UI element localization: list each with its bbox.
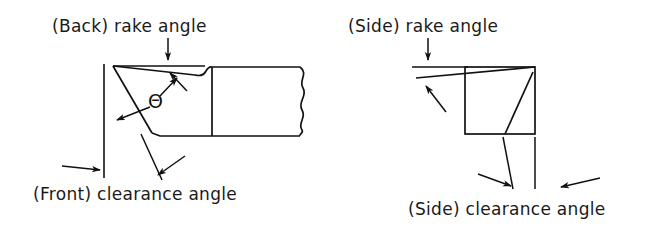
theta-angle-symbol-label: Θ bbox=[148, 92, 163, 111]
tool-shank-bottom-edge bbox=[152, 133, 300, 136]
side-rake-face-line bbox=[416, 67, 535, 78]
front-clearance-face-line bbox=[113, 66, 152, 133]
front-clearance-arrow-left bbox=[62, 166, 100, 170]
break-line-wavy bbox=[300, 67, 304, 136]
front-clearance-angle-label: (Front) clearance angle bbox=[33, 186, 237, 203]
side-clearance-face-line bbox=[505, 72, 533, 134]
tool-angle-diagram: (Back) rake angle (Front) clearance angl… bbox=[0, 0, 653, 243]
side-clearance-angle-label: (Side) clearance angle bbox=[408, 201, 606, 218]
left-view-group bbox=[62, 38, 304, 180]
front-clearance-arrow-right bbox=[158, 156, 185, 175]
back-rake-angle-label: (Back) rake angle bbox=[52, 18, 207, 35]
side-clearance-arrow-left bbox=[478, 174, 511, 186]
side-rake-arrow-lower bbox=[426, 86, 446, 112]
back-rake-face-line bbox=[113, 66, 212, 76]
theta-leader-down-left bbox=[117, 107, 150, 120]
side-rake-angle-label: (Side) rake angle bbox=[348, 18, 498, 35]
side-clearance-leader-line-left bbox=[503, 137, 513, 189]
side-clearance-arrow-right bbox=[561, 178, 600, 187]
right-view-group bbox=[412, 38, 600, 189]
front-clearance-leader-line bbox=[141, 134, 162, 180]
side-view-shank-box bbox=[465, 67, 535, 134]
